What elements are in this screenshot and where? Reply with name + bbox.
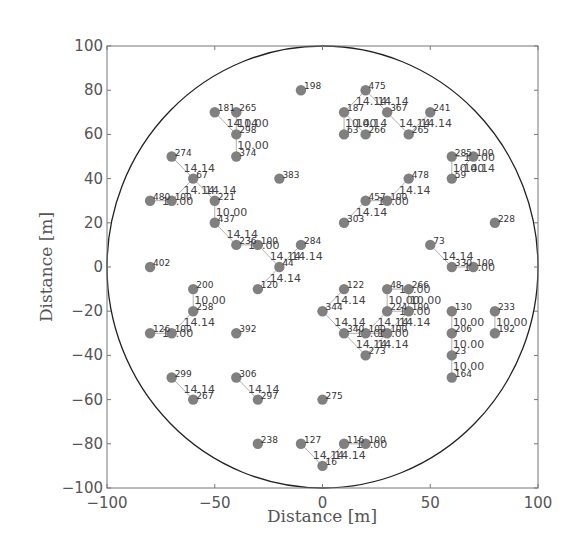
node-id-label: 122 <box>347 280 364 290</box>
node-id-label: 241 <box>433 103 450 113</box>
node-id-label: 100 <box>390 324 407 334</box>
node-id-label: 100 <box>476 148 493 158</box>
node-id-label: 44 <box>282 258 294 268</box>
node-id-label: 127 <box>304 435 321 445</box>
node-id-label: 116 <box>347 435 364 445</box>
node-id-label: 265 <box>412 125 429 135</box>
node-id-label: 126 <box>153 324 170 334</box>
node-id-label: 340 <box>347 324 364 334</box>
node-id-label: 298 <box>239 125 256 135</box>
node-id-label: 100 <box>369 324 386 334</box>
y-axis-title: Distance [m] <box>36 212 56 322</box>
node-id-label: 478 <box>412 170 429 180</box>
node-id-label: 100 <box>175 192 192 202</box>
network-topology-chart: 14.1410.0010.0014.1414.1410.0014.1414.14… <box>0 0 583 548</box>
node-id-label: 67 <box>196 170 207 180</box>
link-distance-label: 14.14 <box>291 250 323 263</box>
node-id-label: 100 <box>390 192 407 202</box>
node-id-label: 266 <box>369 125 386 135</box>
node-id-label: 273 <box>369 346 386 356</box>
y-tick-label: −100 <box>62 479 103 497</box>
node-id-label: 344 <box>326 302 343 312</box>
node-id-label: 285 <box>455 148 472 158</box>
node-id-label: 402 <box>153 258 170 268</box>
y-tick-label: 20 <box>84 214 103 232</box>
node-id-label: 297 <box>261 391 278 401</box>
node-id-label: 284 <box>304 236 321 246</box>
node-id-label: 275 <box>326 391 343 401</box>
node-id-label: 181 <box>218 103 235 113</box>
node-id-label: 198 <box>304 81 321 91</box>
y-tick-label: −60 <box>71 391 103 409</box>
node-id-label: 224 <box>390 302 407 312</box>
node-id-label: 299 <box>175 369 192 379</box>
node-id-label: 100 <box>369 435 386 445</box>
node-id-label: 303 <box>347 214 364 224</box>
node-id-labels: 1984751812652983741873672416326626527467… <box>153 81 515 467</box>
x-tick-label: −50 <box>199 494 231 512</box>
node-id-label: 120 <box>261 280 278 290</box>
node-id-label: 200 <box>196 280 213 290</box>
node-id-label: 130 <box>455 302 472 312</box>
links-layer <box>150 90 495 466</box>
node-id-label: 63 <box>347 125 358 135</box>
node-id-label: 480 <box>153 192 170 202</box>
node-id-label: 228 <box>498 214 515 224</box>
y-tick-label: 100 <box>74 37 103 55</box>
y-tick-label: −40 <box>71 346 103 364</box>
node-id-label: 23 <box>455 346 466 356</box>
node-id-label: 374 <box>239 148 256 158</box>
node-id-label: 475 <box>369 81 386 91</box>
node-id-label: 100 <box>261 236 278 246</box>
node-id-label: 457 <box>369 192 386 202</box>
node-id-label: 236 <box>239 236 256 246</box>
node-id-label: 59 <box>455 170 467 180</box>
node-id-label: 164 <box>455 369 472 379</box>
node-id-label: 48 <box>390 280 402 290</box>
node-id-label: 267 <box>196 391 213 401</box>
node-id-label: 206 <box>455 324 472 334</box>
node-id-label: 221 <box>218 192 235 202</box>
node-id-label: 100 <box>175 324 192 334</box>
node-id-label: 233 <box>498 302 515 312</box>
node-id-label: 16 <box>326 457 338 467</box>
node-id-label: 100 <box>476 258 493 268</box>
x-tick-label: 50 <box>421 494 440 512</box>
y-tick-label: 80 <box>84 81 103 99</box>
node-id-label: 238 <box>261 435 278 445</box>
y-tick-label: −20 <box>71 302 103 320</box>
node-id-label: 330 <box>455 258 472 268</box>
y-tick-label: −80 <box>71 435 103 453</box>
y-tick-label: 0 <box>93 258 103 276</box>
node-id-label: 265 <box>239 103 256 113</box>
node-id-label: 187 <box>347 103 364 113</box>
node-id-label: 73 <box>433 236 444 246</box>
node-id-label: 437 <box>218 214 235 224</box>
node-id-label: 100 <box>412 302 429 312</box>
node-id-label: 192 <box>498 324 515 334</box>
x-axis-title: Distance [m] <box>267 506 377 526</box>
x-tick-label: 100 <box>524 494 553 512</box>
link-distance-labels: 14.1410.0010.0014.1414.1410.0014.1414.14… <box>162 95 528 462</box>
y-tick-label: 60 <box>84 125 103 143</box>
node-id-label: 392 <box>239 324 256 334</box>
y-tick-label: 40 <box>84 170 103 188</box>
node-id-label: 306 <box>239 369 256 379</box>
link-distance-label: 14.14 <box>464 162 496 175</box>
node-id-label: 258 <box>196 302 213 312</box>
nodes-layer <box>145 85 500 471</box>
node-id-label: 383 <box>282 170 299 180</box>
node-id-label: 367 <box>390 103 407 113</box>
node-id-label: 274 <box>175 148 192 158</box>
node-id-label: 266 <box>412 280 429 290</box>
